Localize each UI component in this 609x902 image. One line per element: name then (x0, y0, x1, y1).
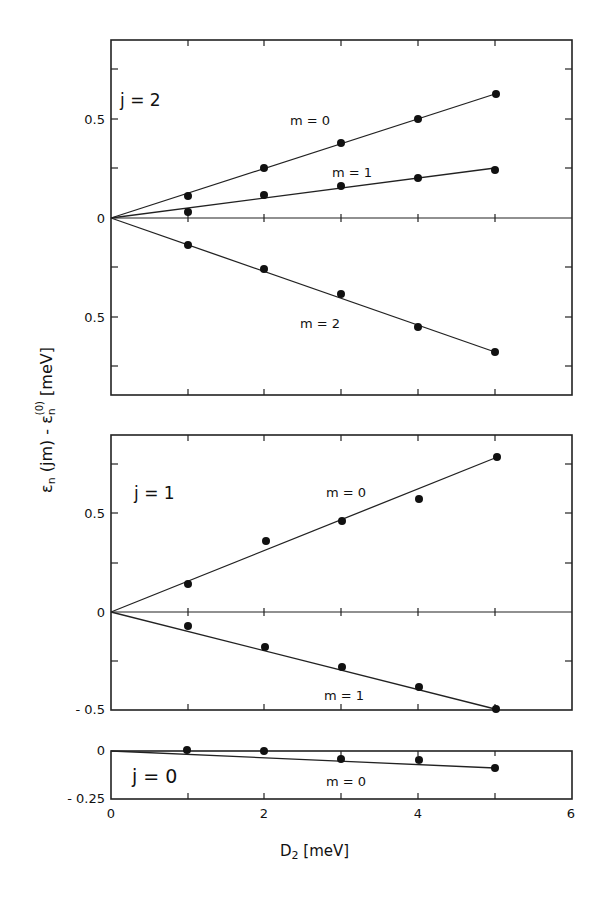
fit-j2-m2 (111, 218, 495, 352)
fit-j2-m1 (111, 168, 495, 218)
panel-j1-ytick-0: 0 (97, 605, 105, 620)
fit-j1-m1 (111, 612, 495, 709)
figure: 0.5 0 0.5 j = 2 m = 0 m = 1 m = 2 (0, 0, 609, 902)
y-axis-sup: (0) (34, 401, 45, 415)
y-axis-eps1: ε (37, 484, 56, 493)
panel-j2-ytick-neg0.5: 0.5 (84, 310, 105, 325)
panel-j1-ytick-0.5: 0.5 (84, 506, 105, 521)
xtick-0: 0 (107, 806, 115, 821)
panel-j2-label: j = 2 (119, 90, 161, 110)
xtick-4: 4 (414, 806, 422, 821)
series-label-j1-m1: m = 1 (324, 688, 364, 703)
y-axis-eps2: ε (37, 415, 56, 424)
x-axis-title-main: D (280, 842, 292, 860)
series-j1-m0 (184, 453, 501, 588)
y-axis-unit: [meV] (37, 347, 56, 401)
x-axis-title: D2 [meV] (280, 842, 349, 862)
series-label-j2-m2: m = 2 (300, 316, 340, 331)
series-label-j0-m0: m = 0 (326, 774, 366, 789)
series-j0-m0 (183, 746, 499, 772)
y-axis-mid: (jm) - (37, 424, 56, 478)
y-axis-n2: n (45, 408, 58, 415)
panel-j0-label: j = 0 (131, 765, 177, 787)
y-axis-title: εn (jm) - εn(0) [meV] (34, 347, 58, 493)
x-axis-title-sub: 2 (292, 849, 299, 862)
panel-j1-label: j = 1 (133, 483, 175, 503)
xtick-2: 2 (260, 806, 268, 821)
series-label-j1-m0: m = 0 (326, 485, 366, 500)
series-label-j2-m0: m = 0 (290, 113, 330, 128)
y-axis: εn (jm) - εn(0) [meV] (34, 347, 58, 493)
xtick-6: 6 (567, 806, 575, 821)
panel-j2-ytick-0: 0 (97, 211, 105, 226)
y-axis-n1: n (45, 477, 58, 484)
panel-j1: 0.5 0 - 0.5 j = 1 m = 0 m = 1 (76, 435, 573, 717)
x-axis: 0 2 4 6 D2 [meV] (107, 806, 575, 862)
fit-j1-m0 (111, 458, 495, 612)
panel-j1-ytick-neg0.5: - 0.5 (76, 702, 106, 717)
panel-j0-ytick-0: 0 (97, 743, 105, 758)
panel-j2-ytick-0.5: 0.5 (84, 112, 105, 127)
panel-j0-ytick-neg0.25: - 0.25 (67, 791, 105, 806)
panel-j0: 0 - 0.25 j = 0 m = 0 (67, 743, 572, 806)
x-axis-title-unit: [meV] (299, 842, 350, 860)
series-label-j2-m1: m = 1 (332, 165, 372, 180)
panel-j2: 0.5 0 0.5 j = 2 m = 0 m = 1 m = 2 (84, 40, 572, 395)
